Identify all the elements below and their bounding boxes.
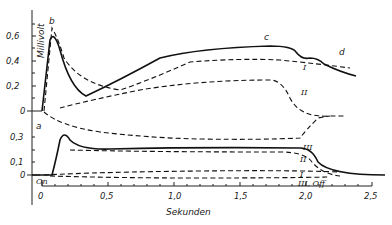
curve-I-lower — [44, 171, 340, 175]
x-tick-0: 0 — [38, 191, 43, 201]
label-b: b — [49, 16, 55, 26]
y-tick-0.2: 0,2 — [6, 81, 20, 91]
label-II-upper: II — [300, 88, 308, 97]
x-axis-label: Sekunden — [166, 207, 211, 217]
x-tick-2.0: 2,0 — [299, 191, 313, 201]
label-c: c — [264, 32, 269, 42]
y-tick-0.4: 0,4 — [6, 56, 20, 66]
y-axis-label: Millivolt — [36, 23, 46, 58]
y-tick-0-upper: 0 — [20, 106, 25, 116]
curve-III-upper — [44, 112, 330, 139]
y-tick-0-lower: 0 — [20, 170, 25, 180]
y-tick-0.1: 0,1 — [10, 157, 24, 167]
label-I-upper: I — [302, 63, 307, 72]
upper-total-curve — [42, 37, 356, 111]
curve-II-upper — [60, 80, 345, 116]
curve-III-off-lower — [50, 176, 330, 178]
x-tick-2.5: 2,5 — [364, 191, 378, 201]
x-tick-0.5: 0,5 — [100, 191, 114, 201]
label-II-lower: II — [299, 155, 307, 164]
erg-chart: 0,6 0,4 0,2 0 0,3 0,1 0 Millivolt 0 0,5 … — [0, 0, 392, 225]
label-d: d — [339, 47, 345, 57]
label-a: a — [36, 121, 42, 131]
x-tick-1.0: 1,0 — [168, 191, 182, 201]
x-tick-1.5: 1,5 — [234, 191, 248, 201]
y-tick-0.6: 0,6 — [6, 31, 20, 41]
label-on: On — [36, 177, 48, 186]
y-tick-0.3: 0,3 — [10, 132, 24, 142]
label-III-upper: III — [302, 143, 313, 152]
label-III-off: III, Off — [297, 179, 326, 188]
lower-total-curve — [32, 135, 385, 175]
